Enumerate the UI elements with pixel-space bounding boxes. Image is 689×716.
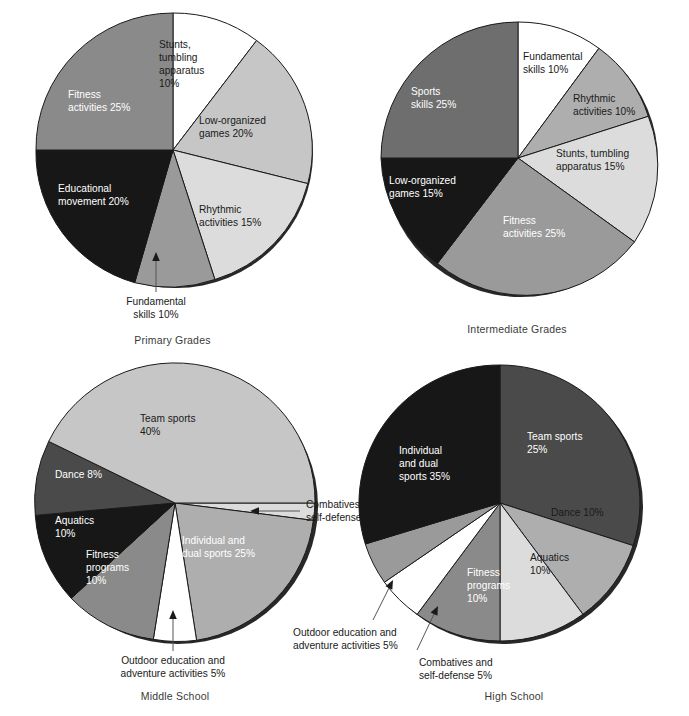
label-line: skills 25% (411, 99, 456, 110)
pie-intermediate-grades: Fundamental skills 10% Rhythmic activiti… (345, 0, 689, 330)
label-line: Sports (411, 86, 440, 97)
label-line: Aquatics (530, 552, 569, 563)
callout-line: Combatives and (419, 657, 493, 668)
chart-primary-grades: Stunts, tumbling apparatus 10% Low-organ… (0, 0, 345, 358)
label-line: 25% (527, 444, 547, 455)
label-dance: Dance 10% (551, 507, 604, 518)
label-line: Fitness (503, 215, 536, 226)
chart-title-high-school: High School (339, 690, 689, 702)
label-line: 10% (467, 593, 487, 604)
label-line: activities 25% (503, 228, 565, 239)
label-line: Stunts, (159, 39, 191, 50)
label-line: games 15% (389, 188, 443, 199)
label-line: programs (467, 580, 510, 591)
label-line: Stunts, tumbling (556, 148, 629, 159)
label-line: skills 10% (523, 64, 568, 75)
label-line: Individual (399, 445, 442, 456)
slice-fitness-activities[interactable] (36, 13, 173, 150)
callout-line: Outdoor education and (293, 627, 397, 638)
label-line: Fitness (68, 89, 101, 100)
chart-high-school: Team sports 25% Dance 10% Aquatics 10% F… (289, 358, 689, 716)
label-line: 40% (140, 426, 160, 437)
label-line: Low-organized (389, 175, 456, 186)
label-line: tumbling (159, 52, 198, 63)
label-line: sports 35% (399, 471, 450, 482)
label-line: activities 15% (199, 217, 261, 228)
pie-high-school: Team sports 25% Dance 10% Aquatics 10% F… (289, 358, 689, 698)
label-line: Fitness (86, 549, 119, 560)
label-line: Aquatics (55, 515, 94, 526)
callout-line: Fundamental (126, 296, 185, 307)
label-line: Rhythmic (199, 204, 241, 215)
callout-outdoor-education: Outdoor education and adventure activiti… (293, 580, 398, 651)
label-line: Dance 10% (551, 507, 604, 518)
slice-sports-skills[interactable] (381, 22, 518, 158)
label-line: apparatus (159, 65, 204, 76)
callout-line: adventure activities 5% (293, 640, 398, 651)
label-line: 10% (530, 565, 550, 576)
label-line: Fundamental (523, 51, 582, 62)
label-line: movement 20% (58, 196, 129, 207)
pie-slices-middle (35, 363, 315, 642)
callout-line: adventure activities 5% (121, 668, 226, 679)
label-line: Dance 8% (55, 469, 102, 480)
chart-title-primary-grades: Primary Grades (0, 334, 345, 346)
label-line: Fitness (467, 567, 500, 578)
label-line: Team sports (140, 413, 195, 424)
label-line: 10% (55, 528, 75, 539)
chart-title-intermediate-grades: Intermediate Grades (345, 323, 689, 335)
leader-line (373, 586, 390, 620)
label-line: apparatus 15% (556, 161, 625, 172)
chart-intermediate-grades: Fundamental skills 10% Rhythmic activiti… (345, 0, 689, 358)
label-line: dual sports 25% (182, 548, 255, 559)
label-dance: Dance 8% (55, 469, 102, 480)
pie-slices-high (359, 365, 640, 641)
label-line: and dual (399, 458, 438, 469)
label-line: Low-organized (199, 115, 266, 126)
label-line: 10% (86, 575, 106, 586)
label-line: Team sports (527, 431, 582, 442)
callout-line: Outdoor education and (121, 655, 225, 666)
label-line: programs (86, 562, 129, 573)
callout-line: skills 10% (133, 309, 178, 320)
label-line: Educational (58, 183, 111, 194)
label-line: games 20% (199, 128, 253, 139)
label-line: 10% (159, 78, 179, 89)
pie-primary-grades: Stunts, tumbling apparatus 10% Low-organ… (0, 0, 345, 340)
callout-line: self-defense 5% (419, 670, 492, 681)
label-line: activities 10% (573, 106, 635, 117)
label-line: Rhythmic (573, 93, 615, 104)
label-line: activities 25% (68, 102, 130, 113)
label-line: Individual and (182, 535, 245, 546)
